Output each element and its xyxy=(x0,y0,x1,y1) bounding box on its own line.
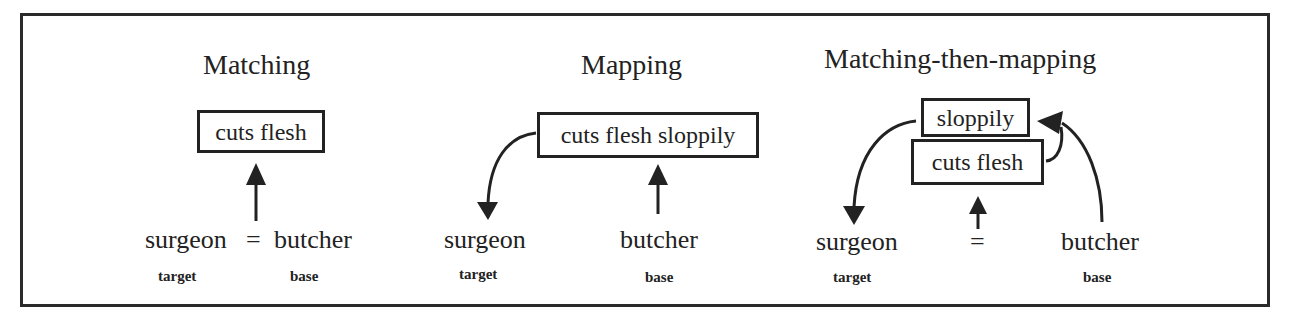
base-word: butcher xyxy=(274,226,352,254)
box-label: sloppily xyxy=(937,105,1014,131)
base-word: butcher xyxy=(1061,228,1139,256)
predicate-box-cuts-flesh-sloppily: cuts flesh sloppily xyxy=(537,112,759,158)
target-word: surgeon xyxy=(444,226,526,254)
panel-title: Matching-then-mapping xyxy=(824,44,1096,74)
target-label: target xyxy=(833,268,871,286)
predicate-box-sloppily: sloppily xyxy=(921,98,1030,137)
panel-title: Mapping xyxy=(581,50,682,80)
target-word: surgeon xyxy=(816,228,898,256)
base-label: base xyxy=(1083,268,1111,286)
predicate-box-cuts-flesh: cuts flesh xyxy=(197,110,325,153)
target-label: target xyxy=(459,265,497,283)
base-label: base xyxy=(645,268,673,286)
base-label: base xyxy=(290,267,318,285)
box-label: cuts flesh sloppily xyxy=(561,122,736,148)
box-label: cuts flesh xyxy=(215,119,306,145)
panel-title: Matching xyxy=(203,50,310,80)
equals-sign: = xyxy=(246,226,261,254)
predicate-box-cuts-flesh: cuts flesh xyxy=(911,139,1044,185)
base-word: butcher xyxy=(620,226,698,254)
target-label: target xyxy=(158,267,196,285)
target-word: surgeon xyxy=(145,226,227,254)
box-label: cuts flesh xyxy=(932,149,1023,175)
equals-sign: = xyxy=(970,228,985,256)
